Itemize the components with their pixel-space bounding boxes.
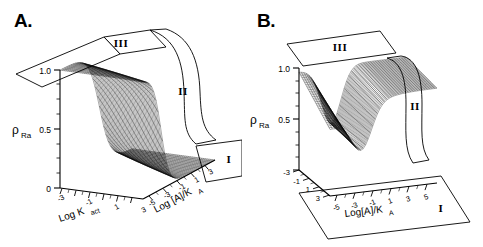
panel-b-plot: III II I [241,0,483,247]
region-iii-b-label: III [333,41,347,53]
figure-container: A. III II I [0,0,483,247]
z-axis-title-a-main: ρ [12,123,19,137]
z-axis-title-b-main: ρ [250,113,257,127]
z-tick-b-1: 0.5 [278,115,290,125]
depth-tick-a-2: 1 [113,202,121,212]
region-ii-a-label: II [178,85,188,97]
depth-tick-b-1: -1 [293,177,300,186]
z-axis-title-a: ρ Ra [12,123,32,140]
region-ii-b: II [387,56,429,163]
depth-tick-a-3: 3 [140,205,148,215]
x-axis-title-a-sub: A [197,187,205,196]
z-tick-a-1: 0.5 [39,125,51,135]
depth-axis-title-a-sub: act [90,207,101,217]
depth-tick-b-0: -3 [283,168,290,177]
x-axis-title-a-main: Log [A]/K [152,186,194,215]
panel-a: A. III II I [0,0,242,247]
z-axis-b: 1.0 0.5 [278,64,299,171]
depth-axis-a: -3 -1 1 3 Log K act [56,188,148,227]
depth-tick-b-2: 1 [306,185,310,194]
region-iii-b: III [287,31,396,66]
panel-a-plot: III II I [0,0,242,247]
z-tick-a-0: 1.0 [39,66,51,76]
panel-b: B. III II I [241,0,483,247]
z-tick-b-0: 1.0 [278,64,290,74]
depth-tick-b-3: 3 [316,194,320,203]
z-axis-title-a-sub: Ra [21,131,32,140]
region-iii-a: III [16,30,166,87]
depth-tick-a-1: -1 [84,197,94,208]
z-tick-a-2: 0 [46,184,51,194]
region-i-a: I [196,140,242,182]
region-i-b: I [299,176,470,239]
depth-tick-a-0: -3 [56,193,66,204]
region-iii-a-label: III [114,37,128,49]
depth-axis-title-a-main: Log K [57,205,86,224]
z-axis-title-b-sub: Ra [259,121,270,130]
region-ii-b-label: II [410,100,420,112]
x-tick-a-3: 1 [193,175,201,185]
region-i-b-label: I [439,202,444,214]
region-i-a-label: I [227,153,232,165]
z-axis-title-b: ρ Ra [250,113,270,130]
